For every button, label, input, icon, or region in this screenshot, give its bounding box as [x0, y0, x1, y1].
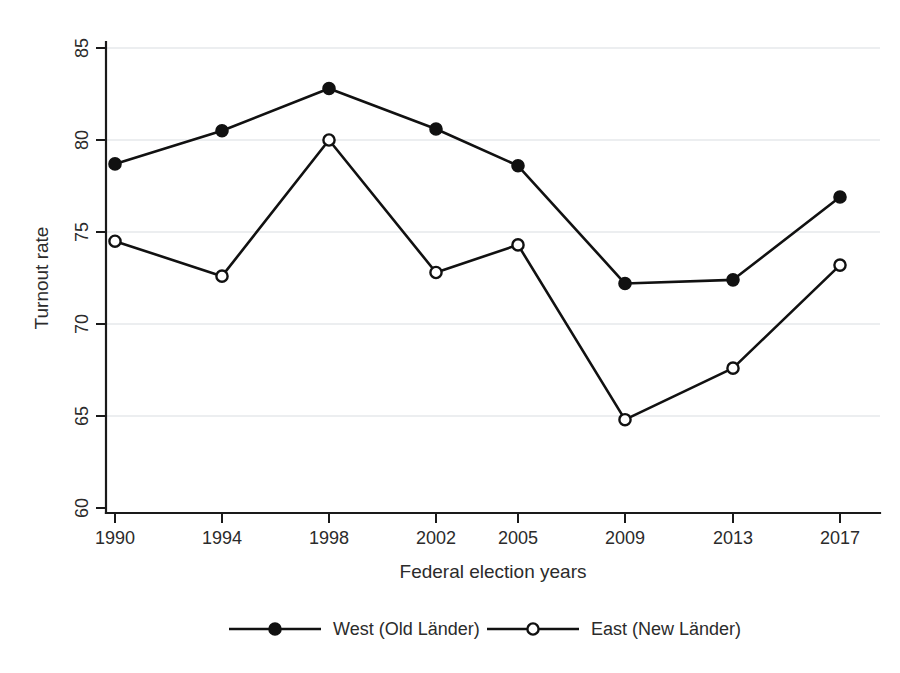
y-tick-label: 65 [72, 406, 92, 426]
y-tick-label: 75 [72, 222, 92, 242]
x-axis-title: Federal election years [400, 561, 587, 582]
x-tick-label: 1998 [309, 528, 349, 548]
y-axis-ticks: 606570758085 [72, 38, 106, 518]
legend-marker [527, 623, 538, 634]
chart-legend: West (Old Länder)East (New Länder) [229, 619, 741, 639]
data-point-marker [430, 123, 442, 135]
x-tick-label: 1994 [202, 528, 242, 548]
y-tick-label: 85 [72, 38, 92, 58]
x-tick-label: 2005 [498, 528, 538, 548]
y-tick-label: 60 [72, 498, 92, 518]
data-point-marker [619, 278, 631, 290]
line-chart: 606570758085 199019941998200220052009201… [0, 0, 900, 673]
gridlines [107, 48, 880, 416]
x-axis-ticks: 19901994199820022005200920132017 [95, 513, 860, 548]
data-point-marker [512, 239, 523, 250]
data-point-marker [109, 236, 120, 247]
data-point-marker [834, 260, 845, 271]
data-point-marker [323, 134, 334, 145]
y-tick-label: 70 [72, 314, 92, 334]
data-point-marker [834, 191, 846, 203]
x-tick-label: 1990 [95, 528, 135, 548]
x-tick-label: 2013 [713, 528, 753, 548]
data-series-group [109, 82, 846, 425]
data-point-marker [216, 271, 227, 282]
data-point-marker [727, 274, 739, 286]
x-tick-label: 2009 [605, 528, 645, 548]
data-point-marker [109, 158, 121, 170]
chart-figure: 606570758085 199019941998200220052009201… [0, 0, 900, 673]
data-point-marker [512, 160, 524, 172]
data-point-marker [430, 267, 441, 278]
x-tick-label: 2017 [820, 528, 860, 548]
data-point-marker [619, 414, 630, 425]
data-point-marker [323, 82, 335, 94]
data-point-marker [727, 363, 738, 374]
x-tick-label: 2002 [416, 528, 456, 548]
series-line-west [115, 88, 840, 283]
legend-label: East (New Länder) [591, 619, 741, 639]
legend-marker [269, 623, 281, 635]
y-axis-title: Turnout rate [31, 227, 52, 330]
y-tick-label: 80 [72, 130, 92, 150]
data-point-marker [216, 125, 228, 137]
legend-label: West (Old Länder) [333, 619, 480, 639]
